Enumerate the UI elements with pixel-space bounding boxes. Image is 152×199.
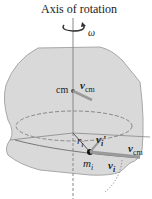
rotation-arrow-icon [63, 25, 84, 31]
v-i-label: vi [108, 160, 115, 174]
v-cm-right-label: vcm [128, 143, 143, 157]
cm-label: cm [56, 85, 68, 95]
m-i-sub: i [91, 163, 93, 172]
v-i-sub: i [113, 165, 115, 174]
v-i-prime-label: vi′ [96, 134, 106, 148]
v-cm-top-label: vcm [80, 80, 95, 94]
axis-title: Axis of rotation [41, 3, 117, 15]
omega-text: ω [88, 27, 95, 38]
omega-label: ω [88, 28, 95, 38]
v-cm-right-sub: cm [133, 148, 143, 157]
r-i-sub: i [81, 140, 83, 149]
rigid-body-diagram [0, 0, 152, 199]
r-i-label: ri [77, 135, 84, 149]
v-i-prime-mark: ′ [103, 133, 106, 145]
m-i-m: m [83, 157, 91, 169]
m-i-label: mi [83, 158, 93, 172]
v-cm-top-sub: cm [85, 85, 95, 94]
